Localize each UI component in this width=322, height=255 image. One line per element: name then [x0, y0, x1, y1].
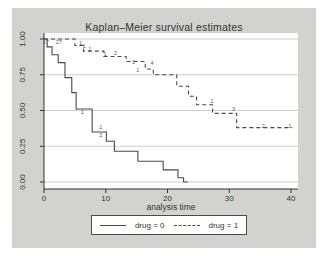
- legend-label-drug1: drug = 1: [209, 221, 239, 230]
- y-tick-label: 1.00: [18, 31, 27, 47]
- chart-title: Kaplan–Meier survival estimates: [12, 21, 316, 33]
- censor-count-label: 2: [114, 50, 117, 56]
- y-tick-label: 0.25: [18, 138, 27, 154]
- x-axis-title: analysis time: [44, 202, 298, 212]
- legend-solid-line-sample: [100, 225, 126, 226]
- censor-count-label: 2: [99, 132, 102, 138]
- censor-count-label: 17: [43, 39, 49, 45]
- y-tick-label: 0.50: [18, 102, 27, 118]
- censor-count-label: 1: [88, 46, 91, 52]
- legend-dashed-line-sample: [174, 225, 200, 226]
- censor-count-label: 4: [151, 60, 154, 66]
- censor-count-label: 1: [136, 67, 139, 73]
- censor-count-label: 2: [262, 123, 265, 129]
- censor-count-label: 1: [132, 59, 135, 65]
- y-tick-label: 0.00: [18, 174, 27, 190]
- legend-label-drug0: drug = 0: [135, 221, 165, 230]
- km-plot-canvas: 0.000.250.500.751.0001020304017271121111…: [12, 8, 316, 248]
- censor-count-label: 1: [210, 98, 213, 104]
- y-tick-label: 0.75: [18, 66, 27, 82]
- legend-box: drug = 0 drug = 1: [91, 215, 247, 235]
- screenshot-root: 0.000.250.500.751.0001020304017271121111…: [0, 0, 322, 255]
- censor-count-label: 3: [232, 106, 235, 112]
- censor-count-label: 1: [79, 40, 82, 46]
- censor-count-label: 1: [99, 124, 102, 130]
- censor-count-label: 27: [56, 39, 62, 45]
- censor-count-label: 1: [83, 43, 86, 49]
- censor-count-label: 1: [104, 51, 107, 57]
- km-figure: 0.000.250.500.751.0001020304017271121111…: [12, 8, 316, 248]
- censor-count-label: 1: [81, 109, 84, 115]
- censor-count-label: 1: [288, 123, 291, 129]
